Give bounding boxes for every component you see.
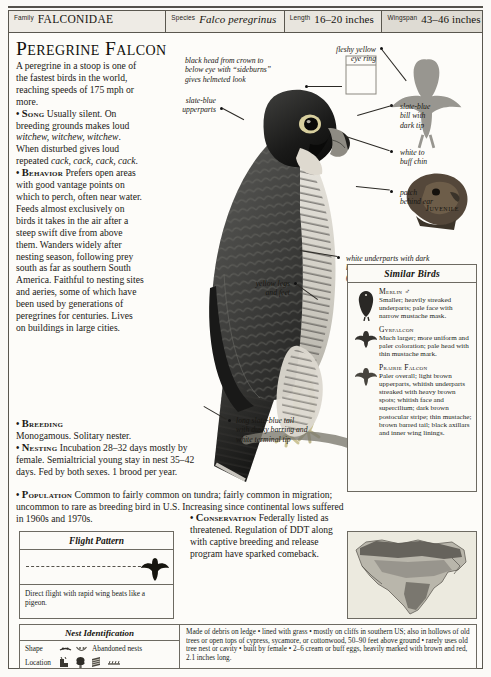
similar-birds-box: Similar Birds Merlin ♂ Smaller; heavily … [347, 264, 477, 492]
north-america-range-map [348, 532, 476, 618]
song-call-2: cack, cack, cack, cack [51, 155, 136, 166]
similar-birds-list: Merlin ♂ Smaller; heavily streaked under… [348, 283, 476, 437]
nest-location-row: Location [20, 655, 179, 669]
header-field-wingspan: Wingspan 43–46 inches [382, 11, 482, 32]
range-map-box [347, 531, 477, 619]
song-text-3: . [136, 155, 138, 166]
header-label-length: Length [290, 14, 310, 21]
flight-pattern-diagram [20, 550, 173, 585]
cup-nest-icon [75, 644, 88, 653]
song-label: Song [22, 108, 45, 119]
flight-bird-silhouette-icon [140, 556, 170, 582]
nest-identification-left: Nest Identification Shape Abandoned n [20, 625, 180, 668]
behavior-text: Prefers open areas with good vantage poi… [16, 167, 144, 333]
breeding-text: Monogamous. Solitary nester. [16, 430, 131, 441]
similar-bird-desc: Paler overall; light brown upperparts, w… [379, 372, 472, 438]
page-title: Peregrine Falcon [16, 38, 166, 60]
flat-scrape-nest-icon [59, 644, 72, 653]
header-value-species: Falco peregrinus [199, 13, 276, 25]
gyrfalcon-flight-icon [354, 327, 378, 351]
similar-bird-text: Gyrfalcon Much larger; more uniform and … [379, 325, 472, 359]
gyrfalcon-thumbnail [352, 325, 379, 359]
header-field-family: Family FALCONIDAE [9, 11, 166, 32]
species-account-column-b: • Breeding Monogamous. Solitary nester. … [16, 418, 208, 478]
nest-identification-box: Nest Identification Shape Abandoned n [19, 624, 477, 669]
merlin-perched-icon [354, 289, 378, 321]
nest-shape-row: Shape Abandoned nests [20, 641, 179, 655]
flight-pattern-title: Flight Pattern [20, 532, 173, 550]
similar-bird-desc: Much larger; more uniform and paler colo… [379, 334, 472, 359]
flight-pattern-box: Flight Pattern Direct flight with rapid … [19, 531, 174, 619]
similar-bird-name: Merlin ♂ [379, 287, 472, 296]
similar-bird-item: Gyrfalcon Much larger; more uniform and … [352, 325, 472, 359]
nest-location-icons [59, 656, 121, 668]
similar-birds-title: Similar Birds [348, 265, 476, 283]
prairie-falcon-thumbnail [352, 363, 379, 438]
song-call-1: witchew, witchew, witchew [16, 131, 119, 142]
page-top-rule [8, 6, 483, 8]
header-value-family: FALCONIDAE [38, 13, 114, 25]
ground-icon [107, 658, 121, 666]
similar-bird-name: Gyrfalcon [379, 325, 472, 334]
similar-bird-text: Merlin ♂ Smaller; heavily streaked under… [379, 287, 472, 321]
nest-shape-icons [59, 644, 88, 653]
header-value-wingspan: 43–46 inches [421, 13, 481, 25]
nest-shape-label: Shape [25, 644, 59, 653]
cliff-ledge-icon [59, 656, 71, 668]
flight-pattern-caption: Direct flight with rapid wing beats like… [20, 585, 173, 607]
nest-location-label: Location [25, 658, 59, 667]
population-label: Population [22, 489, 72, 500]
breeding-label: Breeding [22, 418, 63, 429]
conservation-label: Conservation [196, 512, 257, 523]
header-value-length: 16–20 inches [314, 13, 374, 25]
header-label-species: Species [171, 14, 195, 21]
prairie-falcon-flight-icon [354, 365, 378, 389]
similar-bird-text: Prairie Falcon Paler overall; light brow… [379, 363, 472, 438]
species-header-band: Family FALCONIDAE Species Falco peregrin… [8, 10, 483, 33]
species-account-column-a: A peregrine in a stoop is one of the fas… [16, 60, 144, 334]
flight-path-dashed-line [26, 566, 146, 567]
similar-bird-name: Prairie Falcon [379, 363, 472, 372]
species-account-conservation: • Conservation Federally listed as threa… [190, 512, 342, 560]
merlin-thumbnail [352, 287, 379, 321]
intro-paragraph: A peregrine in a stoop is one of the fas… [16, 60, 136, 107]
header-label-family: Family [14, 14, 34, 21]
field-guide-page: Family FALCONIDAE Species Falco peregrin… [0, 0, 491, 677]
nesting-label: Nesting [22, 442, 58, 453]
building-icon [90, 656, 104, 668]
header-field-length: Length 16–20 inches [285, 11, 383, 32]
similar-bird-item: Prairie Falcon Paler overall; light brow… [352, 363, 472, 438]
nest-shape-value: Abandoned nests [92, 644, 142, 653]
similar-bird-item: Merlin ♂ Smaller; heavily streaked under… [352, 287, 472, 321]
similar-bird-desc: Smaller; heavily streaked underparts; pa… [379, 296, 472, 321]
header-field-species: Species Falco peregrinus [166, 11, 285, 32]
behavior-label: Behavior [22, 167, 63, 178]
nest-identification-title: Nest Identification [20, 625, 179, 641]
header-label-wingspan: Wingspan [387, 14, 417, 21]
tree-icon [74, 656, 87, 668]
nest-description: Made of debris on ledge • lined with gra… [180, 625, 476, 668]
